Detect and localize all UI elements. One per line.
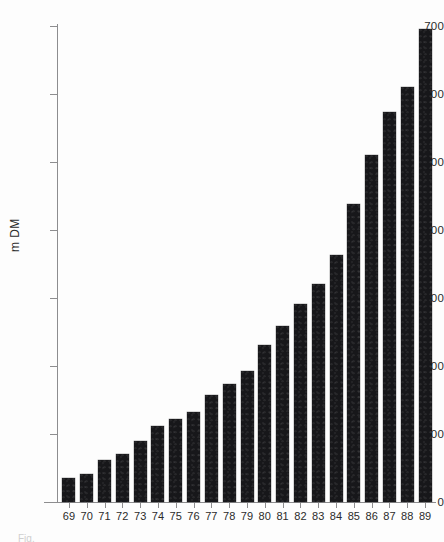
- x-axis-tick: [372, 503, 373, 508]
- x-axis-tick: [247, 503, 248, 508]
- x-axis-tick-label: 72: [116, 510, 128, 522]
- bar: [134, 441, 147, 502]
- bar: [258, 345, 271, 502]
- x-axis-tick-label: 79: [241, 510, 253, 522]
- bar: [187, 412, 200, 502]
- x-axis-tick-label: 86: [365, 510, 377, 522]
- bar: [80, 474, 93, 502]
- x-axis-tick: [140, 503, 141, 508]
- y-axis-tick: [50, 434, 57, 435]
- y-axis-tick: [50, 26, 57, 27]
- x-axis-tick-label: 83: [312, 510, 324, 522]
- x-axis-tick: [425, 503, 426, 508]
- bar: [383, 112, 396, 502]
- x-axis-line: [44, 502, 436, 503]
- x-axis-tick-label: 76: [187, 510, 199, 522]
- bar: [241, 371, 254, 502]
- x-axis-tick-label: 73: [134, 510, 146, 522]
- bar: [347, 204, 360, 502]
- x-axis-tick-label: 80: [259, 510, 271, 522]
- bar: [62, 478, 75, 502]
- x-axis-tick-label: 88: [401, 510, 413, 522]
- plot-area: [60, 26, 434, 502]
- bar: [419, 29, 432, 502]
- y-axis-tick: [50, 298, 57, 299]
- bar: [330, 255, 343, 502]
- x-axis-tick: [407, 503, 408, 508]
- x-axis-tick: [336, 503, 337, 508]
- x-axis-tick: [87, 503, 88, 508]
- x-axis-tick: [194, 503, 195, 508]
- x-axis-tick: [265, 503, 266, 508]
- bar: [151, 426, 164, 502]
- bar: [276, 326, 289, 502]
- x-axis-tick: [69, 503, 70, 508]
- y-axis-tick: [50, 502, 57, 503]
- x-axis-tick-label: 77: [205, 510, 217, 522]
- x-axis-tick: [300, 503, 301, 508]
- x-axis-tick: [318, 503, 319, 508]
- bar: [205, 395, 218, 502]
- x-axis-tick-label: 70: [80, 510, 92, 522]
- bar-chart-figure: m DM 0100200300400500600700 697071727374…: [0, 0, 444, 542]
- bar: [169, 419, 182, 502]
- x-axis-tick-label: 74: [152, 510, 164, 522]
- bar: [294, 304, 307, 502]
- x-axis-tick: [229, 503, 230, 508]
- bar: [98, 460, 111, 502]
- x-axis-tick-label: 85: [348, 510, 360, 522]
- x-axis-tick-label: 84: [330, 510, 342, 522]
- y-axis-line: [57, 24, 58, 503]
- y-axis-tick: [50, 94, 57, 95]
- x-axis-tick: [354, 503, 355, 508]
- x-axis-tick-label: 71: [98, 510, 110, 522]
- x-axis-tick-label: 81: [276, 510, 288, 522]
- x-axis-tick-label: 87: [383, 510, 395, 522]
- x-axis-tick-label: 82: [294, 510, 306, 522]
- x-axis-tick: [158, 503, 159, 508]
- bar: [401, 87, 414, 502]
- y-axis-tick: [50, 366, 57, 367]
- y-axis-title: m DM: [8, 218, 22, 252]
- x-axis-tick: [122, 503, 123, 508]
- figure-caption-partial: Fig.: [18, 533, 258, 542]
- x-axis-tick: [389, 503, 390, 508]
- y-axis-tick: [50, 230, 57, 231]
- x-axis-tick: [283, 503, 284, 508]
- bar: [116, 454, 129, 502]
- y-axis-tick: [50, 162, 57, 163]
- bar: [312, 284, 325, 502]
- x-axis-tick: [211, 503, 212, 508]
- x-axis-tick-label: 75: [170, 510, 182, 522]
- x-axis-tick-label: 89: [419, 510, 431, 522]
- x-axis-tick: [105, 503, 106, 508]
- x-axis-tick: [176, 503, 177, 508]
- x-axis-tick-label: 78: [223, 510, 235, 522]
- bar: [223, 384, 236, 502]
- bar: [365, 155, 378, 502]
- x-axis-tick-label: 69: [63, 510, 75, 522]
